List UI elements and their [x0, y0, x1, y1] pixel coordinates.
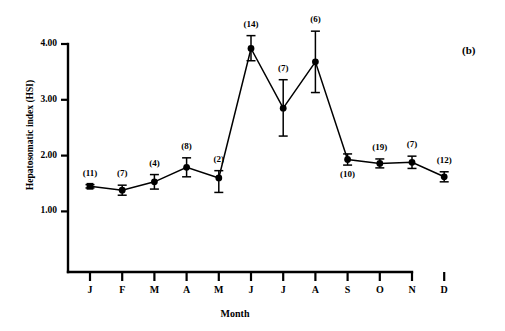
x-tick-label: A — [175, 284, 199, 295]
sample-size-label: (6) — [295, 14, 335, 24]
data-point-marker — [312, 58, 319, 65]
x-tick-label: O — [368, 284, 392, 295]
error-bar — [214, 171, 223, 193]
data-point-marker — [376, 160, 383, 167]
x-tick-label: D — [432, 284, 456, 295]
y-tick-label: 1.00 — [17, 205, 57, 215]
x-tick-label: A — [303, 284, 327, 295]
sample-size-label: (7) — [102, 168, 142, 178]
sample-size-label: (7) — [392, 139, 432, 149]
data-point-marker — [119, 187, 126, 194]
y-tick-label: 4.00 — [17, 38, 57, 48]
data-point-marker — [409, 159, 416, 166]
x-tick-label: N — [400, 284, 424, 295]
data-point-marker — [215, 175, 222, 182]
chart-plot-area — [0, 0, 505, 331]
sample-size-label: (2) — [199, 154, 239, 164]
data-point-marker — [151, 178, 158, 185]
data-point-marker — [87, 183, 94, 190]
y-tick-label: 3.00 — [17, 94, 57, 104]
x-tick-label: M — [207, 284, 231, 295]
data-point-marker — [248, 45, 255, 52]
x-tick-label: F — [110, 284, 134, 295]
sample-size-label: (12) — [424, 155, 464, 165]
data-point-marker — [280, 105, 287, 112]
figure-panel: (b) Hepatosomatic index (HSI) Month 1.00… — [0, 0, 505, 331]
sample-size-label: (14) — [231, 19, 271, 29]
x-tick-label: J — [78, 284, 102, 295]
data-point-marker — [183, 164, 190, 171]
data-point-marker — [441, 173, 448, 180]
data-point-marker — [344, 156, 351, 163]
sample-size-label: (8) — [167, 141, 207, 151]
x-tick-label: M — [142, 284, 166, 295]
x-tick-label: S — [336, 284, 360, 295]
x-tick-label: J — [271, 284, 295, 295]
y-tick-label: 2.00 — [17, 150, 57, 160]
sample-size-label: (10) — [328, 169, 368, 179]
sample-size-label: (7) — [263, 63, 303, 73]
sample-size-label: (4) — [134, 158, 174, 168]
x-tick-label: J — [239, 284, 263, 295]
